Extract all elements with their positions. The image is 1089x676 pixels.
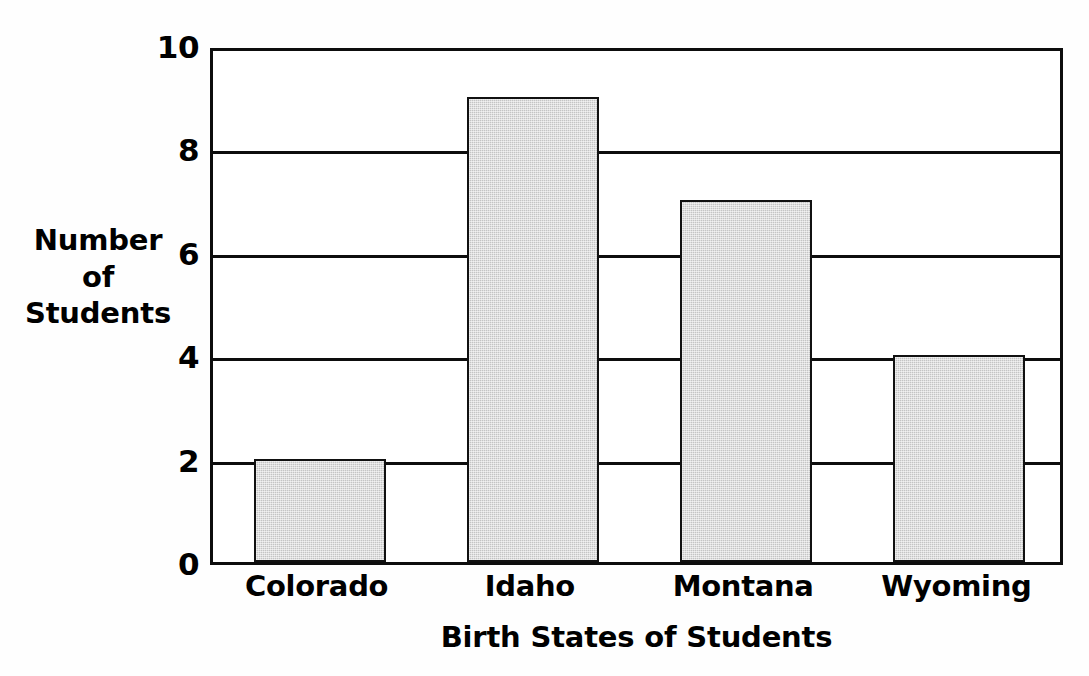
gridline xyxy=(213,151,1060,154)
x-axis-category-label: Wyoming xyxy=(850,572,1063,601)
gridline xyxy=(213,255,1060,258)
bar-chart-figure: Number of Students 1086420 ColoradoIdaho… xyxy=(0,0,1089,676)
bar-montana xyxy=(680,200,812,562)
plot-inner xyxy=(213,51,1060,562)
x-axis-category-label: Montana xyxy=(637,572,850,601)
y-axis-tick-label: 8 xyxy=(135,135,199,166)
bar-idaho xyxy=(467,97,599,562)
plot-area xyxy=(210,48,1063,565)
y-axis-tick-label: 2 xyxy=(135,446,199,477)
y-axis-tick-labels: 1086420 xyxy=(127,0,199,676)
y-axis-tick-label: 4 xyxy=(135,342,199,373)
x-axis-category-label: Idaho xyxy=(423,572,636,601)
y-axis-tick-label: 6 xyxy=(135,239,199,270)
bar-colorado xyxy=(254,459,386,562)
bar-wyoming xyxy=(893,355,1025,562)
y-axis-tick-label: 10 xyxy=(135,32,199,63)
y-axis-tick-label: 0 xyxy=(135,549,199,580)
x-axis-title: Birth States of Students xyxy=(210,620,1063,654)
x-axis-category-label: Colorado xyxy=(210,572,423,601)
x-axis-category-labels: ColoradoIdahoMontanaWyoming xyxy=(210,572,1063,614)
